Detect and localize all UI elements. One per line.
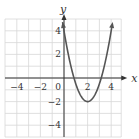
parabola-chart: −4−202442−2−4 x y xyxy=(0,0,139,139)
y-tick-label: −4 xyxy=(48,120,62,130)
x-tick-label: 0 xyxy=(55,82,61,92)
y-tick-label: −2 xyxy=(48,97,61,107)
x-tick-label: 2 xyxy=(85,82,91,92)
y-tick-label: 4 xyxy=(55,26,61,36)
x-axis-label: x xyxy=(131,72,138,85)
x-tick-label: −2 xyxy=(34,82,47,92)
arrowhead-icon xyxy=(109,22,114,28)
x-tick-label: −4 xyxy=(10,82,24,92)
y-axis-label: y xyxy=(59,3,67,16)
y-tick-label: 2 xyxy=(55,49,61,59)
axes xyxy=(5,14,127,137)
x-tick-label: 4 xyxy=(108,82,114,92)
